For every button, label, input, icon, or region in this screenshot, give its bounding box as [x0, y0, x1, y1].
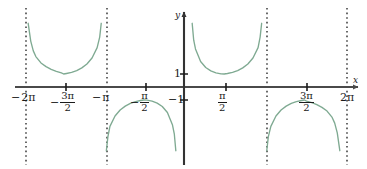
x-tick-label: π2 [218, 91, 227, 113]
function-graph-figure: −2π−3π2−π−π2π23π22π1−1yx [0, 0, 367, 169]
minus-sign: − [50, 97, 59, 108]
y-axis-name-label: y [175, 11, 180, 20]
y-tick-label: 1 [174, 68, 181, 79]
tick-fraction: π2 [140, 91, 149, 113]
fraction-denominator: 2 [218, 103, 227, 114]
curve-branch-left-outer [28, 23, 101, 74]
x-tick-label: −π [92, 92, 109, 103]
x-tick-label: −3π2 [50, 91, 75, 113]
tick-value: π [102, 92, 109, 103]
fraction-numerator: π [140, 91, 149, 103]
tick-fraction: π2 [218, 91, 227, 113]
fraction-denominator: 2 [140, 103, 149, 114]
minus-sign: − [92, 92, 101, 103]
tick-fraction: 3π2 [299, 91, 314, 113]
minus-sign: − [11, 92, 20, 103]
x-tick-label: 3π2 [299, 91, 314, 113]
x-tick-label: 2π [340, 92, 354, 103]
fraction-numerator: π [218, 91, 227, 103]
fraction-denominator: 2 [299, 103, 314, 114]
fraction-numerator: 3π [60, 91, 75, 103]
tick-value: 2π [21, 92, 35, 103]
curve-branch-right-inner [192, 23, 261, 74]
tick-fraction: 3π2 [60, 91, 75, 113]
fraction-denominator: 2 [60, 103, 75, 114]
graph-canvas [0, 0, 367, 169]
tick-value: 2π [340, 92, 354, 103]
x-tick-label: −π2 [130, 91, 149, 113]
x-tick-label: −2π [11, 92, 35, 103]
minus-sign: − [130, 97, 139, 108]
x-axis-name-label: x [353, 76, 358, 85]
y-tick-label: −1 [168, 94, 184, 105]
fraction-numerator: 3π [299, 91, 314, 103]
